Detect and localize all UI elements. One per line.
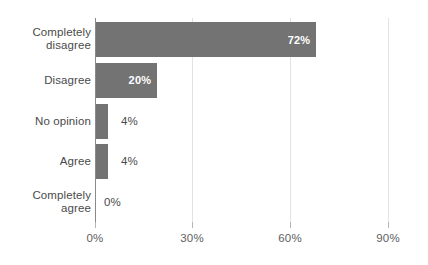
xtick-mark-0	[95, 222, 96, 228]
xtick-mark-90	[388, 222, 389, 228]
bar-value-label: 4%	[121, 115, 138, 127]
bar-disagree: 20%	[96, 63, 157, 98]
xtick-mark-60	[290, 222, 291, 228]
bar-agree	[96, 144, 108, 179]
category-label-line: No opinion	[7, 115, 91, 128]
xtick-label-30: 30%	[172, 232, 212, 244]
bar-row: Agree 4%	[0, 141, 428, 182]
category-label: Completely agree	[7, 189, 91, 215]
bar-chart: Completely disagree 72% Disagree 20% No …	[0, 0, 428, 265]
category-label-line: disagree	[7, 39, 91, 52]
bar-completely-disagree: 72%	[96, 22, 316, 57]
bar-no-opinion	[96, 104, 108, 139]
bar-row: Disagree 20%	[0, 60, 428, 101]
xtick-label-90: 90%	[368, 232, 408, 244]
bar-value-label: 72%	[288, 34, 311, 46]
category-label-line: agree	[7, 202, 91, 215]
xtick-label-0: 0%	[75, 232, 115, 244]
category-label-line: Completely	[7, 26, 91, 39]
category-label: Agree	[7, 155, 91, 168]
category-label-line: Disagree	[7, 74, 91, 87]
bar-row: No opinion 4%	[0, 101, 428, 142]
bar-value-label: 20%	[129, 74, 152, 86]
bar-row: Completely disagree 72%	[0, 19, 428, 60]
category-label-line: Agree	[7, 155, 91, 168]
bar-value-label: 0%	[104, 196, 121, 208]
bar-value-label: 4%	[121, 155, 138, 167]
xtick-label-60: 60%	[270, 232, 310, 244]
category-label: Completely disagree	[7, 26, 91, 52]
category-label-line: Completely	[7, 189, 91, 202]
category-label: No opinion	[7, 115, 91, 128]
category-label: Disagree	[7, 74, 91, 87]
bar-row: Completely agree 0%	[0, 182, 428, 223]
xtick-mark-30	[192, 222, 193, 228]
